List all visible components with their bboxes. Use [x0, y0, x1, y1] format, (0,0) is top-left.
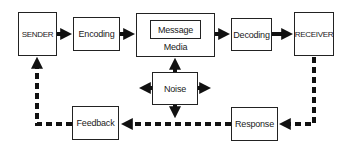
message-label: Message	[158, 25, 193, 35]
feedback-label: Feedback	[77, 118, 115, 128]
encoding-box: Encoding	[73, 17, 120, 51]
response-label: Response	[235, 119, 274, 129]
response-box: Response	[231, 107, 278, 141]
receiver-label: RECEIVER	[295, 30, 334, 39]
decoding-box: Decoding	[231, 18, 272, 51]
receiver-box: RECEIVER	[294, 12, 334, 56]
dashed-feedback-sender	[37, 64, 72, 124]
message-box: Message	[150, 20, 201, 39]
media-box: Message Media	[136, 13, 215, 57]
sender-box: SENDER	[18, 12, 57, 56]
encoding-label: Encoding	[79, 29, 115, 39]
feedback-box: Feedback	[72, 106, 119, 140]
dashed-receiver-response	[286, 57, 314, 124]
noise-box: Noise	[152, 72, 198, 105]
sender-label: SENDER	[22, 30, 54, 39]
decoding-label: Decoding	[233, 30, 269, 40]
media-label: Media	[137, 42, 214, 52]
noise-label: Noise	[164, 84, 186, 94]
